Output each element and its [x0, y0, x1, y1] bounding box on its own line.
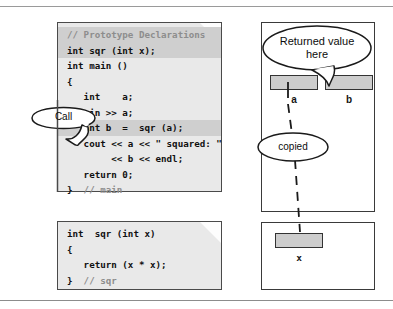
annotation-overlay	[0, 0, 393, 309]
figure-canvas: // Prototype Declarationsint sqr (int x)…	[0, 0, 393, 309]
call-callout-shape	[32, 108, 95, 146]
copied-callout-shape	[258, 133, 328, 161]
returned-value-callout-shape	[263, 26, 371, 86]
